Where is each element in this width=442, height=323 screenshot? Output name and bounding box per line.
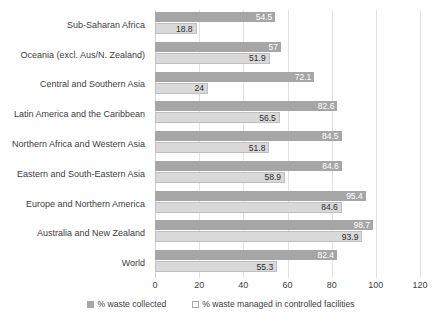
bar-managed: 84.6 [155, 202, 342, 213]
bar-collected: 54.5 [155, 12, 275, 22]
category-label: Australia and New Zealand [37, 218, 145, 248]
bar-managed: 55.3 [155, 261, 277, 272]
bar-managed: 58.9 [155, 172, 285, 183]
bar-groups: 54.518.85751.972.12482.656.584.551.884.6… [155, 10, 420, 278]
bar-collected: 98.7 [155, 220, 373, 230]
x-tick-label: 100 [368, 280, 383, 290]
bar-collected: 82.6 [155, 101, 337, 111]
bar-managed: 93.9 [155, 231, 362, 242]
category-axis: Sub-Saharan AfricaOceania (excl. Aus/N. … [0, 10, 150, 278]
bar-managed: 24 [155, 83, 208, 94]
legend-item-collected[interactable]: % waste collected [87, 299, 166, 309]
legend-item-managed[interactable]: % waste managed in controlled facilities [192, 299, 354, 309]
bar-value-label: 56.5 [259, 114, 276, 123]
bar-group: 84.658.9 [155, 159, 420, 189]
category-label: Northern Africa and Western Asia [12, 129, 145, 159]
bar-group: 95.484.6 [155, 189, 420, 219]
bar-value-label: 51.9 [249, 54, 266, 63]
legend-swatch-icon [192, 301, 199, 308]
bar-group: 84.551.8 [155, 129, 420, 159]
legend-swatch-icon [87, 301, 94, 308]
bar-value-label: 84.6 [321, 203, 338, 212]
bar-value-label: 93.9 [342, 233, 359, 242]
bar-group: 82.455.3 [155, 248, 420, 278]
category-label: Central and Southern Asia [40, 70, 145, 100]
x-tick-label: 60 [282, 280, 292, 290]
x-tick-label: 20 [194, 280, 204, 290]
x-tick-label: 40 [238, 280, 248, 290]
bar-value-label: 58.9 [265, 173, 282, 182]
bar-value-label: 24 [195, 84, 204, 93]
bar-value-label: 51.8 [249, 143, 266, 152]
category-label: World [122, 248, 145, 278]
bar-managed: 18.8 [155, 23, 197, 34]
bar-collected: 84.5 [155, 131, 342, 141]
legend-label: % waste managed in controlled facilities [202, 299, 354, 309]
bar-managed: 56.5 [155, 112, 280, 123]
x-tick-label: 0 [152, 280, 157, 290]
bar-value-label: 18.8 [176, 24, 193, 33]
bar-value-label: 82.4 [317, 251, 334, 260]
bar-group: 72.124 [155, 70, 420, 100]
bar-collected: 57 [155, 42, 281, 52]
bar-value-label: 84.5 [322, 132, 339, 141]
bar-group: 5751.9 [155, 40, 420, 70]
x-tick-label: 80 [327, 280, 337, 290]
bar-group: 82.656.5 [155, 99, 420, 129]
category-label: Eastern and South-Eastern Asia [17, 159, 145, 189]
plot-area: 54.518.85751.972.12482.656.584.551.884.6… [155, 10, 420, 278]
waste-management-bar-chart: Sub-Saharan AfricaOceania (excl. Aus/N. … [0, 0, 442, 323]
bar-value-label: 54.5 [256, 13, 273, 22]
bar-value-label: 57 [268, 43, 277, 52]
category-label: Oceania (excl. Aus/N. Zealand) [20, 40, 145, 70]
legend-label: % waste collected [97, 299, 166, 309]
bar-value-label: 82.6 [318, 102, 335, 111]
bar-collected: 95.4 [155, 191, 366, 201]
bar-collected: 82.4 [155, 250, 337, 260]
value-axis: 020406080100120 [155, 278, 420, 294]
bar-collected: 84.6 [155, 161, 342, 171]
x-tick-label: 120 [412, 280, 427, 290]
bar-value-label: 95.4 [346, 191, 363, 200]
bar-value-label: 98.7 [353, 221, 370, 230]
category-label: Sub-Saharan Africa [67, 10, 145, 40]
bar-managed: 51.8 [155, 142, 269, 153]
bar-value-label: 55.3 [257, 262, 274, 271]
bar-group: 98.793.9 [155, 218, 420, 248]
category-label: Europe and Northern America [26, 189, 145, 219]
bar-value-label: 72.1 [295, 72, 312, 81]
bar-managed: 51.9 [155, 53, 270, 64]
bar-group: 54.518.8 [155, 10, 420, 40]
bar-value-label: 84.6 [322, 162, 339, 171]
category-label: Latin America and the Caribbean [14, 99, 145, 129]
bar-collected: 72.1 [155, 72, 314, 82]
chart-legend: % waste collected% waste managed in cont… [0, 299, 442, 309]
gridline-120 [420, 10, 421, 278]
